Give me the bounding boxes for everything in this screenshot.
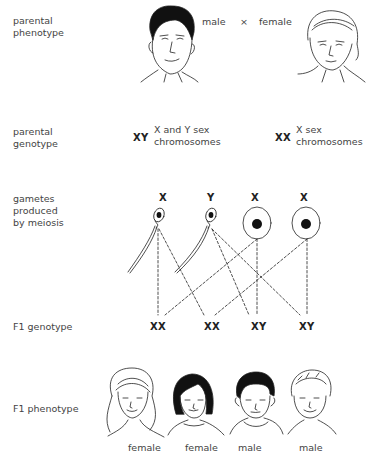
sperm-x-icon [128, 207, 166, 273]
sperm-y-icon [175, 207, 218, 273]
mother-portrait-icon [298, 11, 365, 82]
boy-portrait-icon-1 [230, 372, 283, 434]
girl-portrait-icon-2 [168, 374, 224, 435]
egg-x-icon-2 [292, 207, 320, 239]
fertilization-lines [158, 229, 307, 315]
boy-portrait-icon-2 [288, 370, 336, 434]
egg-x-icon-1 [243, 207, 271, 239]
girl-portrait-icon-1 [107, 368, 164, 437]
father-portrait-icon [141, 6, 198, 82]
diagram-graphics [0, 0, 375, 462]
